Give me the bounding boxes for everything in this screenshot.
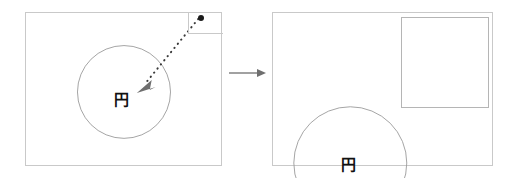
drag-arrowhead	[137, 80, 156, 93]
left-panel-shapes	[26, 13, 221, 165]
square-outline[interactable]: 正方形	[401, 17, 489, 108]
right-panel-after-state: 正方形 円	[272, 12, 493, 166]
transition-arrow-icon	[228, 64, 268, 82]
arrow-head	[257, 69, 266, 77]
right-circle-label: 円	[341, 158, 356, 173]
cursor-dot[interactable]	[198, 15, 204, 21]
collapsed-square-region[interactable]	[188, 12, 223, 34]
left-panel-before-state: 円	[25, 12, 222, 166]
left-circle-label: 円	[114, 93, 129, 108]
diagram-canvas: 円 正方形 円	[0, 0, 519, 178]
